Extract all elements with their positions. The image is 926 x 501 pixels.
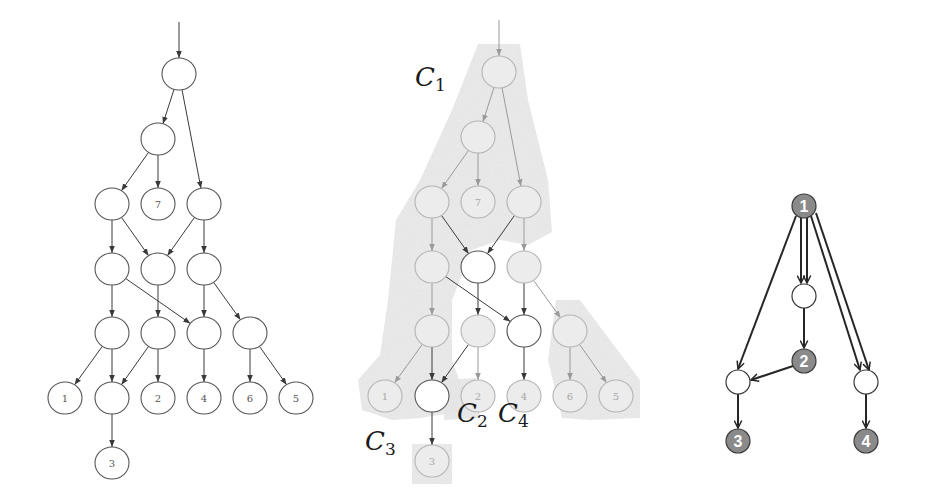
edge-c3-d4 [214, 282, 241, 319]
node-r [162, 58, 196, 90]
quotient-node-3: 3 [726, 429, 750, 453]
node-n2: 2 [141, 382, 175, 414]
quotient-node-label: 1 [800, 198, 809, 215]
node-n4: 4 [187, 382, 221, 414]
node-n5: 5 [279, 382, 313, 414]
edge-b1-c2 [121, 217, 148, 255]
node-b1 [95, 188, 129, 220]
edge-c3-d4 [534, 280, 561, 317]
node-b3 [187, 188, 221, 220]
node-label: 2 [155, 393, 161, 404]
quotient-edge-6 [751, 366, 793, 380]
node-label: 1 [62, 393, 68, 404]
node-c2 [461, 251, 495, 283]
cluster-label-c3: C3 [365, 428, 396, 458]
node-n3: 3 [95, 447, 129, 479]
node-b3 [507, 186, 541, 218]
node-n7: 7 [461, 186, 495, 218]
node-c3 [507, 251, 541, 283]
node-a [141, 123, 175, 155]
node-label: 7 [475, 197, 481, 208]
node-a [461, 121, 495, 153]
edge-r-b3 [182, 90, 201, 189]
edge-d4-n5 [259, 346, 286, 384]
node-c2 [141, 253, 175, 285]
node-d3 [187, 317, 221, 349]
node-label: 1 [382, 391, 388, 402]
quotient-node-m [792, 284, 816, 308]
quotient-edge-4 [816, 213, 869, 370]
node-n1: 1 [48, 382, 82, 414]
node-e2 [95, 382, 129, 414]
node-n5: 5 [599, 380, 633, 412]
cluster-label-c2: C2 [457, 400, 488, 430]
cluster-label-c4: C4 [498, 400, 529, 430]
edge-r-a [163, 89, 174, 123]
right-quotient-graph: 1234 [726, 194, 878, 453]
node-n7: 7 [141, 188, 175, 220]
node-n1: 1 [368, 380, 402, 412]
edge-a-b1 [121, 152, 148, 190]
quotient-node-4: 4 [854, 429, 878, 453]
quotient-edge-0 [738, 216, 796, 369]
edge-d2-e2 [121, 346, 148, 384]
quotient-node-label: 3 [734, 433, 743, 450]
quotient-node-label: 2 [800, 353, 809, 370]
quotient-node-label: 4 [862, 433, 871, 450]
node-d2 [141, 317, 175, 349]
node-e2 [415, 380, 449, 412]
quotient-node-2: 2 [792, 349, 816, 373]
node-n6: 6 [553, 380, 587, 412]
node-c1 [415, 251, 449, 283]
node-d4 [233, 317, 267, 349]
node-n3: 3 [415, 445, 449, 477]
node-b1 [415, 186, 449, 218]
node-d4 [553, 315, 587, 347]
quotient-node-lb [726, 370, 750, 394]
node-d1 [415, 315, 449, 347]
left-graph: 7124653 [48, 22, 313, 479]
node-n6: 6 [233, 382, 267, 414]
node-label: 5 [293, 393, 299, 404]
node-label: 5 [613, 391, 619, 402]
quotient-node-rb [854, 370, 878, 394]
quotient-edge-3 [811, 216, 860, 370]
node-label: 3 [109, 458, 115, 469]
node-r [482, 56, 516, 88]
cluster-label-c1: C1 [415, 64, 446, 94]
node-label: 6 [567, 391, 573, 402]
node-label: 6 [247, 393, 253, 404]
node-c1 [95, 253, 129, 285]
node-label: 3 [429, 456, 435, 467]
node-label: 4 [201, 393, 207, 404]
node-d3 [507, 315, 541, 347]
node-c3 [187, 253, 221, 285]
node-d1 [95, 317, 129, 349]
node-d2 [461, 315, 495, 347]
edge-b3-c2 [167, 217, 194, 255]
quotient-node-1: 1 [792, 194, 816, 218]
edge-d1-n1 [75, 346, 103, 385]
node-label: 7 [155, 199, 161, 210]
